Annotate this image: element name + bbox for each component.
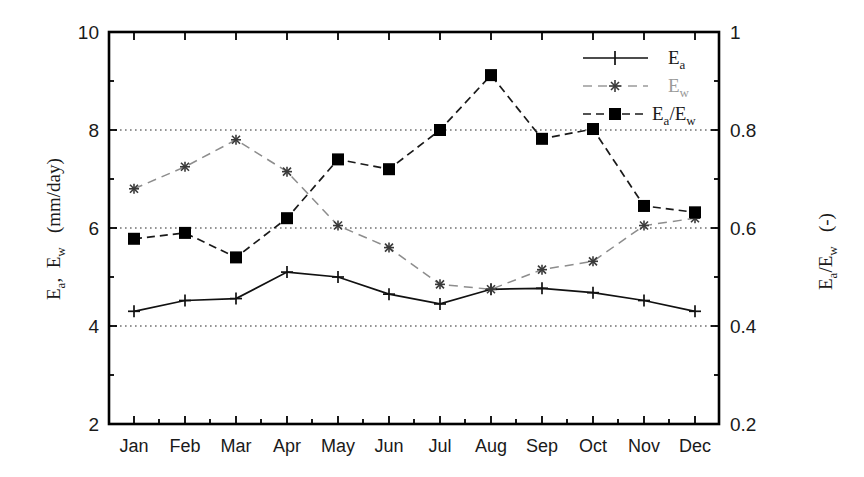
data-point (485, 69, 497, 81)
data-point (383, 163, 395, 175)
right-axis-title-p1: E (815, 278, 836, 290)
data-point (332, 271, 344, 283)
legend-label-ea: Ea (668, 47, 686, 72)
left-tick-labels: 10 8 6 4 2 (78, 22, 100, 435)
data-point (332, 153, 344, 165)
month-label-feb: Feb (169, 436, 200, 456)
x-axis-month-labels: Jan Feb Mar Apr May Jun Jul Aug Sep Oct … (119, 436, 711, 456)
data-point (689, 305, 701, 317)
month-label-aug: Aug (475, 436, 507, 456)
data-point (230, 293, 242, 305)
left-tick-2: 2 (88, 414, 99, 435)
legend-label-ea-ew: Ea/Ew (652, 103, 696, 128)
month-label-sep: Sep (526, 436, 558, 456)
gridlines (110, 130, 718, 326)
right-axis-title-p3: (-) (815, 213, 837, 232)
data-point (587, 287, 599, 299)
legend-marker-ea-ew (609, 108, 621, 120)
month-label-oct: Oct (579, 436, 607, 456)
data-point (383, 288, 395, 300)
month-label-jun: Jun (374, 436, 403, 456)
left-axis-title: Ea, Ew (mm/day) (43, 158, 68, 300)
right-axis-title: Ea/Ew (-) (815, 213, 840, 290)
month-label-mar: Mar (221, 436, 252, 456)
series-layer (128, 69, 701, 317)
right-tick-0.4: 0.4 (730, 316, 757, 337)
month-label-apr: Apr (273, 436, 301, 456)
series-ea (128, 266, 701, 317)
series-line (134, 140, 695, 289)
left-axis-title-p3: E (43, 257, 64, 269)
data-point (639, 221, 649, 231)
data-point (179, 227, 191, 239)
right-tick-0.6: 0.6 (730, 218, 756, 239)
series-line (134, 75, 695, 257)
month-label-jul: Jul (428, 436, 451, 456)
data-point (689, 206, 701, 218)
data-point (588, 256, 598, 266)
legend-marker-ew (609, 80, 621, 92)
data-point (231, 135, 241, 145)
bottom-axis-ticks (134, 416, 695, 423)
left-tick-8: 8 (88, 120, 99, 141)
legend-entry-ea[interactable]: Ea (583, 47, 686, 72)
month-label-jan: Jan (119, 436, 148, 456)
data-point (587, 123, 599, 135)
data-point (281, 212, 293, 224)
data-point (282, 167, 292, 177)
right-tick-0.8: 0.8 (730, 120, 756, 141)
data-point (486, 284, 496, 294)
left-tick-10: 10 (78, 22, 99, 43)
data-point (638, 200, 650, 212)
data-point (128, 305, 140, 317)
series-ew (129, 135, 700, 294)
data-point (536, 282, 548, 294)
chart-figure: 10 8 6 4 2 1 0.8 0.6 0.4 0.2 Jan Feb Mar… (0, 0, 864, 477)
left-tick-4: 4 (88, 316, 99, 337)
left-axis-title-p4: (mm/day) (43, 158, 65, 233)
series-line (134, 272, 695, 311)
month-label-nov: Nov (628, 436, 660, 456)
right-axis-title-p2: /E (815, 256, 836, 273)
data-point (384, 243, 394, 253)
data-point (179, 295, 191, 307)
right-tick-1: 1 (730, 22, 741, 43)
left-axis-title-p1: E (43, 288, 64, 300)
data-point (638, 295, 650, 307)
right-tick-0.2: 0.2 (730, 414, 756, 435)
left-tick-6: 6 (88, 218, 99, 239)
data-point (180, 162, 190, 172)
data-point (128, 233, 140, 245)
data-point (333, 221, 343, 231)
top-axis-ticks (134, 33, 695, 40)
data-point (536, 133, 548, 145)
data-point (129, 184, 139, 194)
legend: Ea Ew Ea/Ew (583, 47, 696, 128)
legend-label-ew: Ew (668, 75, 690, 100)
right-tick-labels: 1 0.8 0.6 0.4 0.2 (730, 22, 757, 435)
data-point (230, 251, 242, 263)
svg-text:Ea, Ew (mm/day): Ea, Ew (mm/day) (43, 158, 68, 300)
data-point (434, 124, 446, 136)
data-point (537, 265, 547, 275)
legend-entry-ew[interactable]: Ew (583, 75, 690, 100)
data-point (281, 266, 293, 278)
month-label-may: May (321, 436, 355, 456)
data-point (434, 298, 446, 310)
series-ea-ew (128, 69, 701, 263)
data-point (435, 279, 445, 289)
chart-svg: 10 8 6 4 2 1 0.8 0.6 0.4 0.2 Jan Feb Mar… (0, 0, 864, 477)
month-label-dec: Dec (679, 436, 711, 456)
legend-entry-ea-ew[interactable]: Ea/Ew (583, 103, 696, 128)
svg-text:Ea/Ew (-): Ea/Ew (-) (815, 213, 840, 290)
